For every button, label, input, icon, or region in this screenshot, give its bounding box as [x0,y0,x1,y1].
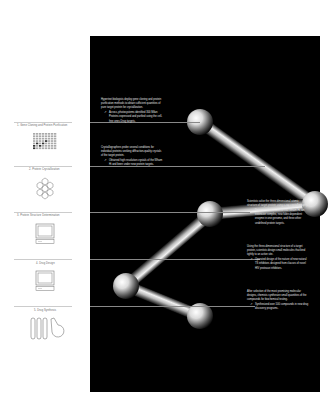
crystal-cluster-icon [34,177,56,199]
grid-cell [48,147,50,149]
grid-cell [42,138,44,140]
atom-sphere-5 [187,303,213,329]
grid-cell [54,147,56,149]
grid-cell [42,143,44,145]
grid-cell [51,133,53,135]
stage-1-divider [14,122,72,123]
grid-cell [45,147,47,149]
test-tubes-flask-icon [30,317,64,341]
grid-cell [51,138,53,140]
grid-cell [45,140,47,142]
protein-array-grid-icon [32,132,58,150]
grid-cell [42,145,44,147]
grid-cell [39,143,41,145]
grid-cell [39,133,41,135]
grid-cell [48,143,50,145]
stage-4-divider [14,259,72,260]
grid-cell [48,140,50,142]
stage-1-note-text: Hypertext biologists deploy gene cloning… [101,98,161,109]
grid-cell [45,143,47,145]
grid-cell [33,133,35,135]
stage-5-connector [90,306,255,307]
grid-cell [39,135,41,137]
grid-cell [51,135,53,137]
grid-cell [45,133,47,135]
stage-4-note-text: Using the three-dimensional structure of… [247,245,305,256]
grid-cell [45,135,47,137]
stage-4-result: Operated design of the nature of new nat… [247,258,309,271]
grid-cell [54,145,56,147]
stage-2-result: Obtained high resolution crystals of the… [101,159,163,167]
stage-3-label: 3. Protein Structure Determination [17,214,60,217]
grid-cell [39,140,41,142]
stage-2-divider [14,166,72,167]
grid-cell [36,138,38,140]
grid-cell [51,145,53,147]
grid-cell [42,133,44,135]
stage-5-label: 5. Drug Synthesis [34,309,56,312]
grid-cell [36,143,38,145]
grid-cell [48,138,50,140]
grid-cell [42,147,44,149]
grid-cell [33,138,35,140]
stage-2-note-text: Crystallographers probe several conditio… [101,146,161,157]
grid-cell [51,143,53,145]
stage-1-result: Across, photosystems identified 300 Mila… [101,111,163,124]
atom-sphere-4 [113,273,139,299]
grid-cell [36,140,38,142]
stage-4-label: 4. Drug Design [36,262,55,265]
grid-cell [36,145,38,147]
stage-3-note-text: Scientists solve the three-dimensional a… [247,200,308,207]
stage-5-note: After selection of the most promising mo… [247,290,309,312]
grid-cell [33,145,35,147]
stage-2-note: Crystallographers probe several conditio… [101,146,163,168]
grid-cell [36,133,38,135]
grid-cell [36,147,38,149]
grid-cell [39,145,41,147]
grid-cell [39,138,41,140]
grid-cell [54,135,56,137]
monitor-icon [35,270,55,292]
grid-cell [48,135,50,137]
grid-cell [42,135,44,137]
grid-cell [33,135,35,137]
grid-cell [48,133,50,135]
monitor-icon [35,223,55,245]
stage-1-label: 1. Gene Cloning and Protein Purification [17,124,67,127]
grid-cell [51,147,53,149]
grid-cell [54,140,56,142]
stage-5-result: Synthesized over 100 compounds in new dr… [247,303,309,311]
grid-cell [54,138,56,140]
stage-3-connector [90,212,250,213]
stage-5-note-text: After selection of the most promising mo… [247,290,306,301]
grid-cell [54,133,56,135]
grid-cell [48,145,50,147]
stage-4-connector [90,259,260,260]
atom-sphere-3 [197,201,223,227]
grid-cell [51,140,53,142]
grid-cell [42,140,44,142]
stage-3-divider [14,212,72,213]
stage-3-result: Determined structures of 930 Wham Hi, an… [247,209,309,226]
grid-cell [45,138,47,140]
stage-3-note: Scientists solve the three-dimensional a… [247,200,309,226]
grid-cell [54,143,56,145]
grid-cell [45,145,47,147]
grid-cell [33,140,35,142]
grid-cell [36,135,38,137]
bond-rod [197,117,319,209]
grid-cell [33,147,35,149]
molecule-panel: Hypertext biologists deploy gene cloning… [90,36,320,392]
stage-1-note: Hypertext biologists deploy gene cloning… [101,98,163,124]
stage-2-label: 2. Protein Crystallization [29,168,60,171]
grid-cell [39,147,41,149]
grid-cell [33,143,35,145]
stage-5-divider [14,306,72,307]
stage-4-note: Using the three-dimensional structure of… [247,245,309,271]
